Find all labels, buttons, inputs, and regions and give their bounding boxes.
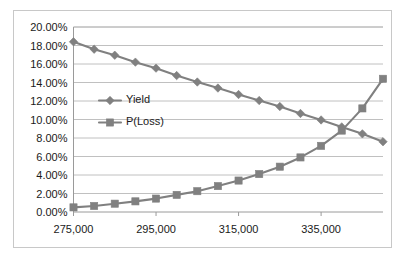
data-point-marker xyxy=(152,64,160,72)
y-axis-tick-label: 12.00% xyxy=(30,95,68,107)
y-axis-tick-label: 18.00% xyxy=(30,40,68,52)
legend-marker-diamond-icon xyxy=(106,96,114,104)
legend-label: Yield xyxy=(126,93,150,105)
data-point-marker xyxy=(358,130,366,138)
data-point-marker xyxy=(173,191,180,198)
data-point-marker xyxy=(172,71,180,79)
legend-item-yield[interactable]: Yield xyxy=(99,93,150,105)
y-axis-tick-label: 16.00% xyxy=(30,58,68,70)
data-point-marker xyxy=(70,204,77,211)
x-axis-tick-label: 295,000 xyxy=(136,223,176,235)
chart-plot[interactable]: 0.00%2.00%4.00%6.00%8.00%10.00%12.00%14.… xyxy=(0,0,406,260)
y-axis-tick-label: 0.00% xyxy=(36,206,67,218)
data-point-marker xyxy=(297,154,304,161)
data-point-marker xyxy=(111,51,119,59)
data-point-marker xyxy=(235,177,242,184)
gridlines xyxy=(74,27,384,194)
data-point-marker xyxy=(69,38,77,46)
chart-legend[interactable]: YieldP(Loss) xyxy=(99,93,164,127)
data-point-marker xyxy=(296,109,304,117)
y-axis-tick-label: 10.00% xyxy=(30,114,68,126)
y-axis-tick-label: 2.00% xyxy=(36,188,67,200)
data-point-marker xyxy=(91,202,98,209)
data-point-marker xyxy=(317,116,325,124)
y-axis-tick-label: 20.00% xyxy=(30,21,68,33)
data-point-marker xyxy=(214,84,222,92)
y-axis-tick-label: 14.00% xyxy=(30,77,68,89)
data-point-marker xyxy=(338,127,345,134)
data-point-marker xyxy=(379,75,386,82)
data-point-marker xyxy=(194,188,201,195)
data-point-marker xyxy=(193,78,201,86)
x-axis-tick-label: 275,000 xyxy=(54,223,94,235)
legend-label: P(Loss) xyxy=(126,115,164,127)
data-point-marker xyxy=(152,195,159,202)
data-point-marker xyxy=(318,142,325,149)
data-point-marker xyxy=(276,163,283,170)
y-axis-tick-label: 6.00% xyxy=(36,151,67,163)
y-axis-tick-label: 8.00% xyxy=(36,132,67,144)
y-axis-tick-labels: 0.00%2.00%4.00%6.00%8.00%10.00%12.00%14.… xyxy=(30,21,68,218)
data-point-marker xyxy=(359,105,366,112)
data-point-marker xyxy=(132,198,139,205)
data-point-marker xyxy=(90,45,98,53)
x-axis-tick-label: 335,000 xyxy=(301,223,341,235)
data-point-marker xyxy=(214,183,221,190)
legend-marker-square-icon xyxy=(106,119,113,126)
data-point-marker xyxy=(111,200,118,207)
series-p-loss[interactable] xyxy=(70,75,387,211)
data-point-marker xyxy=(234,90,242,98)
legend-item-p-loss[interactable]: P(Loss) xyxy=(99,115,164,127)
series-line xyxy=(74,42,384,142)
x-axis-tick-labels: 275,000295,000315,000335,000 xyxy=(54,223,341,235)
series-line xyxy=(74,79,384,208)
data-point-marker xyxy=(131,58,139,66)
y-axis-tick-label: 4.00% xyxy=(36,169,67,181)
data-point-marker xyxy=(276,102,284,110)
data-point-marker xyxy=(256,170,263,177)
data-point-marker xyxy=(379,138,387,146)
x-axis-tick-label: 315,000 xyxy=(219,223,259,235)
data-point-marker xyxy=(255,96,263,104)
